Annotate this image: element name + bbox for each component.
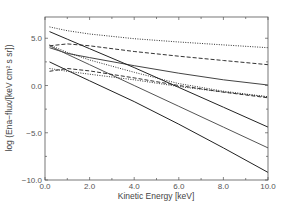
y-tick-label: 0.0 xyxy=(31,82,43,91)
x-tick-label: 6.0 xyxy=(173,182,185,191)
y-axis-label: log (Ena−flux/[keV cm² s sr]) xyxy=(4,44,14,151)
axis-ticks xyxy=(45,17,268,180)
series-solid-curved xyxy=(50,48,269,85)
x-tick-label: 2.0 xyxy=(84,182,96,191)
series-dotted-upper-mid xyxy=(50,45,269,97)
y-tick-label: 5.0 xyxy=(31,34,43,43)
y-tick-label: −10.0 xyxy=(22,176,43,185)
series-solid-thick-top xyxy=(50,32,269,128)
y-tick-label: −5.0 xyxy=(26,129,42,138)
series-dotted-top xyxy=(50,27,269,48)
y-tick-labels: 5.00.0−5.0−10.0 xyxy=(22,34,43,185)
line-chart: 0.02.04.06.08.010.0 5.00.0−5.0−10.0 Kine… xyxy=(0,0,288,210)
plot-lines xyxy=(50,27,269,173)
x-tick-labels: 0.02.04.06.08.010.0 xyxy=(39,182,276,191)
plot-frame xyxy=(45,17,268,180)
x-tick-label: 8.0 xyxy=(218,182,230,191)
x-axis-label: Kinetic Energy [keV] xyxy=(118,191,195,201)
x-tick-label: 10.0 xyxy=(260,182,276,191)
x-tick-label: 4.0 xyxy=(129,182,141,191)
